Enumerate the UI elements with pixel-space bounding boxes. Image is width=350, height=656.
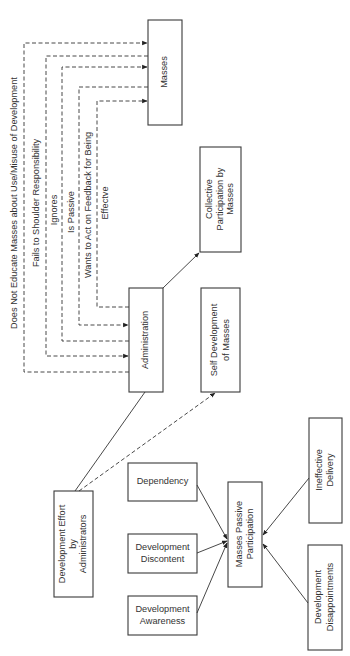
node-development-awareness-label-1: Development <box>135 604 190 614</box>
node-development-effort-label-2: by <box>68 539 78 549</box>
node-dependency-label: Dependency <box>137 476 189 486</box>
node-ineffective-delivery-label-1: Ineffective <box>314 449 324 491</box>
node-development-disappointments-label-1: Development <box>313 569 323 624</box>
node-development-discontent-label-2: Discontent <box>141 554 185 564</box>
node-self-development-label-1: Self Development <box>209 303 219 376</box>
node-development-effort-label-1: Development Effort <box>57 504 67 583</box>
node-development-effort-label-3: Administrators <box>78 514 88 573</box>
edge-ineffective-to-passive <box>263 478 309 535</box>
node-collective-label-1: Collective <box>204 179 214 219</box>
node-development-discontent-label-1: Development <box>135 542 190 552</box>
node-administration-label: Administration <box>140 311 150 369</box>
edge-discontent-to-passive <box>197 541 227 553</box>
node-collective-label-3: Masses <box>225 183 235 215</box>
label-fails-to-shoulder: Fails to Shoulder Responsibility <box>31 139 41 268</box>
edge-admin-to-collective <box>163 253 199 288</box>
edge-disappointments-to-passive <box>263 544 308 603</box>
label-is-passive: Is Passive <box>66 191 76 233</box>
node-development-disappointments-label-2: Disappointments <box>325 562 335 631</box>
label-ignores: Ignores <box>49 194 59 225</box>
node-masses-passive-label-1: Masses Passive <box>234 501 244 567</box>
node-ineffective-delivery-label-2: Delivery <box>325 453 335 487</box>
node-masses-passive-label-2: Participation <box>245 509 255 560</box>
edge-awareness-to-passive <box>197 543 227 613</box>
label-effectve: Effectve <box>100 186 110 219</box>
participation-diagram: Does Not Educate Masses about Use/Misuse… <box>0 0 350 656</box>
node-collective-label-2: Participation by <box>215 167 225 230</box>
node-masses-label: Masses <box>159 56 169 88</box>
label-wants-to-act: Wants to Act on Feedback for Being <box>83 132 93 278</box>
label-does-not-educate: Does Not Educate Masses about Use/Misuse… <box>9 77 19 329</box>
node-development-awareness-label-2: Awareness <box>140 616 186 626</box>
node-self-development-label-2: of Masses <box>221 319 231 361</box>
edge-dependency-to-passive <box>197 485 227 539</box>
